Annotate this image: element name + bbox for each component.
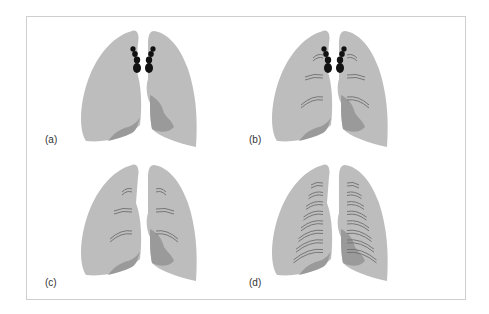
hilar-node [150, 46, 155, 52]
lungs-diagram-d [247, 159, 467, 301]
right-lung [272, 165, 332, 276]
panel-c: (c) [27, 159, 247, 301]
hilar-node [323, 51, 329, 57]
hilar-node [130, 46, 135, 52]
panel-d: (d) [247, 159, 467, 301]
hilar-node [145, 63, 153, 73]
hilar-node [146, 57, 152, 64]
figure-frame: (a) (b) (c) (d) [26, 16, 466, 300]
lungs-diagram-b [247, 17, 467, 159]
lungs-group [272, 31, 388, 148]
right-lung [81, 165, 141, 276]
lungs-group [81, 165, 197, 282]
lungs-group [272, 165, 388, 282]
panel-label: (b) [249, 134, 261, 145]
hilar-node [133, 63, 141, 73]
panel-label: (a) [45, 134, 57, 145]
lungs-group [81, 31, 197, 148]
hilar-node [325, 57, 331, 64]
hilar-node [337, 57, 343, 64]
panel-label: (d) [249, 277, 261, 288]
hilar-node [148, 51, 154, 57]
hilar-node [324, 63, 332, 73]
hilar-node [341, 46, 346, 52]
panel-b: (b) [247, 17, 467, 159]
panel-label: (c) [45, 277, 57, 288]
hilar-node [339, 51, 345, 57]
hilar-node [336, 63, 344, 73]
hilar-node [321, 46, 326, 52]
panel-a: (a) [27, 17, 247, 159]
lungs-diagram-a [27, 17, 247, 159]
hilar-node [132, 51, 138, 57]
hilar-node [134, 57, 140, 64]
lungs-diagram-c [27, 159, 247, 301]
